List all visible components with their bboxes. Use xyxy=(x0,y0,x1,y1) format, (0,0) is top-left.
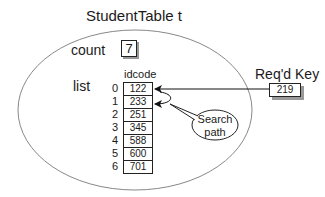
column-header-idcode: idcode xyxy=(124,68,156,80)
row-index: 0 xyxy=(111,82,119,94)
row-index: 1 xyxy=(111,95,119,107)
array-cell: 122 xyxy=(124,83,152,95)
required-key-label: Req'd Key xyxy=(255,66,319,82)
row-index: 6 xyxy=(111,160,119,172)
idcode-array: 122 233 251 345 588 600 701 xyxy=(123,82,153,174)
array-cell: 233 xyxy=(124,95,152,108)
object-title: StudentTable t xyxy=(86,7,182,24)
count-label: count xyxy=(71,42,105,58)
required-key-box: 219 xyxy=(269,83,301,97)
array-cell: 588 xyxy=(124,134,152,147)
array-cell: 600 xyxy=(124,147,152,160)
row-index: 2 xyxy=(111,108,119,120)
array-cell: 701 xyxy=(124,160,152,173)
array-cell: 251 xyxy=(124,108,152,121)
callout-line-2: path xyxy=(193,126,237,139)
search-path-curve xyxy=(155,92,171,104)
count-value-box: 7 xyxy=(121,40,137,57)
diagram-canvas xyxy=(0,0,325,197)
callout-line-1: Search xyxy=(193,113,237,126)
row-index: 4 xyxy=(111,134,119,146)
row-index: 5 xyxy=(111,147,119,159)
callout-text: Search path xyxy=(193,113,237,139)
list-label: list xyxy=(73,78,90,94)
array-cell: 345 xyxy=(124,121,152,134)
row-index: 3 xyxy=(111,121,119,133)
